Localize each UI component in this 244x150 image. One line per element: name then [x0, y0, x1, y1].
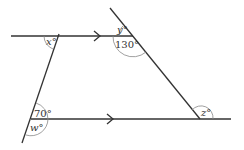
angle-label-70: 70° — [34, 108, 52, 119]
angle-label-y: y° — [116, 24, 128, 35]
angle-diagram: x° y° 130° 70° w° z° — [0, 0, 244, 150]
angle-label-130: 130° — [115, 39, 139, 50]
angle-label-x: x° — [46, 36, 57, 47]
angle-label-z: z° — [200, 107, 211, 118]
angle-label-w: w° — [30, 122, 44, 133]
